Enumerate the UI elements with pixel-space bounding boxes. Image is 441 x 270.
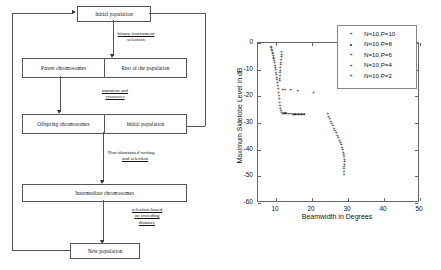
node-intermediate-chromosomes: Intermediate chromosomes (22, 184, 187, 202)
legend-label: N=10,P=8 (364, 40, 392, 47)
feedback-left-bottom (12, 250, 70, 251)
y-tick-right (415, 123, 418, 124)
node-initial-population-inner: Initial population (104, 115, 186, 133)
node-rest-of-population: Rest of the population (104, 59, 186, 77)
x-tick (276, 198, 277, 201)
node-label: New population (88, 248, 123, 254)
label-mutation-crossover: mutation and crossover (72, 88, 158, 101)
y-tick (258, 123, 261, 124)
legend-item: +N=10,P=6 (338, 49, 416, 60)
feedback-right-bottom (186, 126, 205, 127)
label-non-dominated: Non-dominated sorting and selection (108, 150, 212, 163)
node-label: Intermediate chromosomes (75, 190, 134, 196)
x-tick (312, 198, 313, 201)
node-parents-rest-row: Parent chromosomes Rest of the populatio… (22, 58, 187, 78)
legend-marker-icon (338, 41, 364, 47)
edge-intermediate-to-new (103, 200, 104, 242)
data-point: + (296, 87, 299, 92)
edge-parents-to-offspring (60, 76, 61, 112)
label-line-1: mutation and (102, 88, 128, 93)
feedback-left-vertical (12, 13, 13, 251)
y-tick-label: -40 (235, 145, 253, 152)
node-offspring-initial-row: Offspring chromosomes Initial population (22, 114, 187, 134)
y-tick-label: -10 (235, 65, 253, 72)
y-tick-right (415, 150, 418, 151)
x-tick (420, 198, 421, 201)
x-tick-label: 20 (301, 205, 321, 212)
y-tick-right (415, 203, 418, 204)
data-point: + (284, 86, 287, 91)
x-tick (384, 198, 385, 201)
x-tick-top (312, 43, 313, 46)
label-line-2: and selection (122, 156, 148, 162)
x-tick-label: 50 (409, 205, 429, 212)
legend-marker-icon: + (338, 62, 364, 68)
y-tick-label: -50 (235, 171, 253, 178)
legend-item: N=10,P=8 (338, 39, 416, 50)
legend-item: +N=10,P=10 (338, 28, 416, 39)
x-tick-label: 30 (337, 205, 357, 212)
node-initial-population-top: Initial population (77, 6, 151, 22)
arrow-into-initial-population (72, 10, 76, 14)
x-tick (348, 198, 349, 201)
legend-label: N=10,P=10 (364, 30, 395, 37)
feedback-right-vertical (205, 13, 206, 126)
data-point: + (289, 87, 292, 92)
y-tick (258, 70, 261, 71)
node-parent-chromosomes: Parent chromosomes (23, 59, 104, 77)
legend-label: N=10,P=2 (364, 72, 392, 79)
data-point: + (278, 78, 281, 83)
legend-marker-icon: + (338, 51, 364, 57)
label-line-2: crossover (105, 94, 124, 99)
label-crowding-distance: selection based on crowding distance (108, 207, 186, 226)
data-point: + (343, 171, 346, 176)
label-line-1: selection based (132, 207, 162, 212)
node-label: Initial population (95, 11, 133, 17)
label-line-2: on crowding (134, 213, 159, 218)
y-tick-label: -20 (235, 91, 253, 98)
node-label: Rest of the population (121, 65, 169, 71)
y-tick (258, 203, 261, 204)
x-tick-label: 40 (373, 205, 393, 212)
y-tick-right (415, 96, 418, 97)
legend-marker-icon: + (338, 72, 364, 78)
y-tick (258, 43, 261, 44)
legend-item: +N=10,P=2 (338, 70, 416, 81)
pareto-scatter-chart: ++++++++++++++++++++++++++++++++++++++++… (215, 0, 441, 270)
legend-label: N=10,P=4 (364, 61, 392, 68)
y-tick-right (415, 176, 418, 177)
x-tick-top (276, 43, 277, 46)
y-tick-label: -30 (235, 118, 253, 125)
data-point (303, 114, 305, 116)
legend-marker-icon: + (338, 30, 364, 36)
label-line-1: binary tournament (118, 31, 155, 36)
node-label: Parent chromosomes (41, 65, 86, 71)
legend-item: +N=10,P=4 (338, 60, 416, 71)
edge-offspring-to-intermediate (103, 132, 104, 182)
legend-label: N=10,P=6 (364, 51, 392, 58)
feedback-right-top (149, 13, 205, 14)
node-label: Offspring chromosomes (37, 121, 89, 127)
y-tick-label: -60 (235, 198, 253, 205)
feedback-left-top (12, 13, 73, 14)
node-label: Initial population (127, 121, 165, 127)
chart-legend: +N=10,P=10N=10,P=8+N=10,P=6+N=10,P=4+N=1… (337, 25, 417, 89)
y-tick (258, 176, 261, 177)
y-tick-label: 0 (235, 38, 253, 45)
node-new-population: New population (70, 243, 140, 259)
label-line-1: Non-dominated sorting (108, 150, 155, 155)
label-line-3: distance (139, 220, 155, 225)
y-tick (258, 96, 261, 97)
node-offspring-chromosomes: Offspring chromosomes (23, 115, 104, 133)
data-point: + (312, 90, 315, 95)
y-tick (258, 150, 261, 151)
x-axis-title: Beamwidth in Degrees (257, 213, 417, 220)
x-tick-label: 10 (265, 205, 285, 212)
nsga-flowchart: Initial population binary tournament sel… (0, 0, 215, 270)
x-tick-top (420, 43, 421, 46)
label-binary-tournament: binary tournament selection (88, 31, 184, 44)
label-line-2: selection (127, 37, 145, 42)
